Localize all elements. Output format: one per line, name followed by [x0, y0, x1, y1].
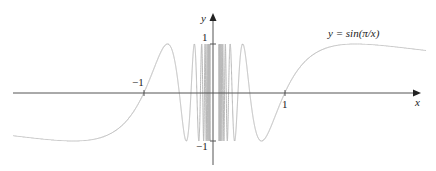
- x-tick-label-1: 1: [282, 98, 288, 110]
- curve-annotation: y = sin(π/x): [327, 27, 380, 40]
- curve-annotation-text: y = sin(π/x): [327, 27, 380, 40]
- x-tick-label-neg1: −1: [132, 76, 144, 88]
- x-axis-label: x: [414, 96, 420, 108]
- y-tick-label-neg1: −1: [196, 140, 208, 152]
- y-tick-label-1: 1: [202, 31, 208, 43]
- y-axis-arrow-icon: [210, 13, 217, 21]
- y-axis-label: y: [200, 12, 206, 24]
- sine-pi-over-x-graph: x y −1 1 1 −1 y = sin(π/x): [0, 0, 436, 171]
